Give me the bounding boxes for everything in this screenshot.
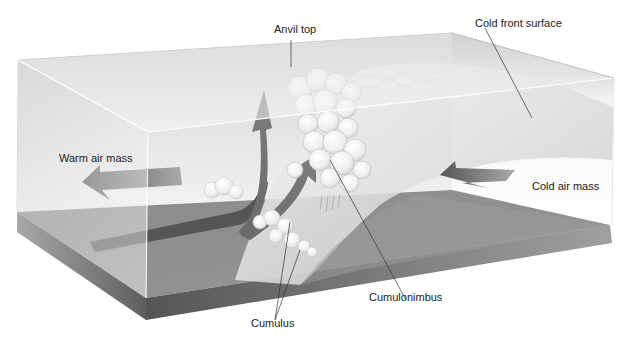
anvil-top-label: Anvil top <box>274 24 316 35</box>
cold-front-surface-label: Cold front surface <box>475 18 562 29</box>
cumulonimbus-label: Cumulonimbus <box>369 292 442 303</box>
diagram-canvas <box>0 0 639 347</box>
warm-air-mass-label: Warm air mass <box>59 153 133 164</box>
cumulus-label: Cumulus <box>251 318 294 329</box>
cold-air-mass-label: Cold air mass <box>532 181 599 192</box>
cold-front-diagram: Anvil top Cold front surface Warm air ma… <box>0 0 639 347</box>
